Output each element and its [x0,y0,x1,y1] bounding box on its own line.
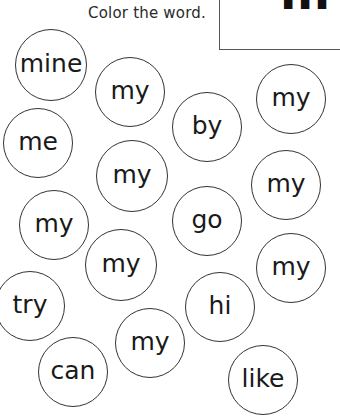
word-label: go [191,207,222,236]
target-word-box: m [219,0,340,50]
word-circle-my[interactable]: my [251,150,321,220]
word-circle-my[interactable]: my [19,190,89,260]
word-label: my [271,254,310,283]
word-label: can [51,358,96,387]
word-label: my [101,251,140,280]
word-label: me [18,129,58,158]
word-circle-my[interactable]: my [85,229,157,301]
word-label: my [271,85,310,114]
word-label: my [34,211,73,240]
word-label: my [130,329,169,358]
word-circle-my[interactable]: my [96,140,168,212]
target-word-letters: m [280,0,334,20]
word-label: my [266,171,305,200]
word-circle-can[interactable]: can [38,337,108,407]
word-label: my [112,162,151,191]
word-circle-go[interactable]: go [172,186,242,256]
word-circle-my[interactable]: my [256,233,326,303]
word-label: try [13,292,48,321]
word-circle-my[interactable]: my [95,57,165,127]
word-circle-like[interactable]: like [228,345,298,415]
word-circle-hi[interactable]: hi [185,272,255,342]
word-circle-by[interactable]: by [172,92,242,162]
word-label: my [110,78,149,107]
word-label: by [192,113,223,142]
word-circle-try[interactable]: try [0,271,65,341]
word-label: like [242,366,285,395]
word-circle-my[interactable]: my [115,308,185,378]
word-label: hi [209,293,232,322]
instruction-text: Color the word. [88,4,206,22]
word-circle-my[interactable]: my [256,64,326,134]
word-label: mine [20,51,83,80]
word-circle-mine[interactable]: mine [15,29,87,101]
word-circle-me[interactable]: me [3,108,73,178]
